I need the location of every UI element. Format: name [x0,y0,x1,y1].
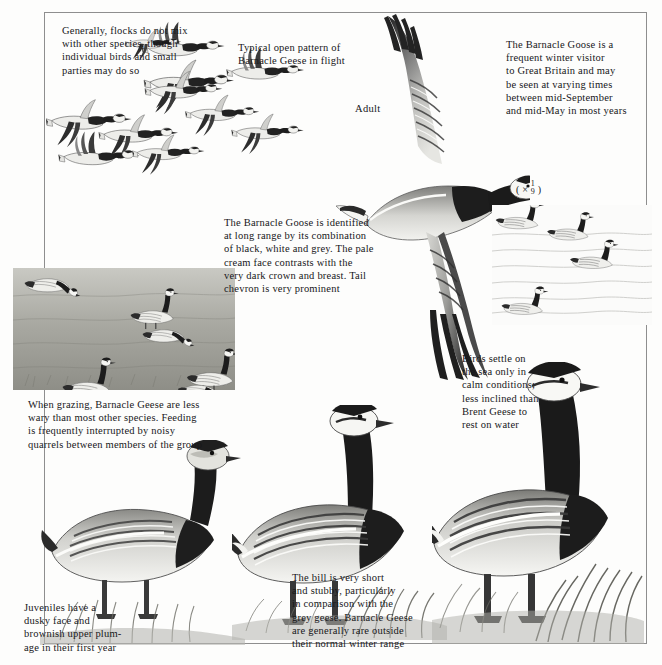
caption-grazing: When grazing, Barnacle Geese are less wa… [28,398,224,451]
caption-identification: The Barnacle Goose is identified at long… [224,216,406,295]
plate-frame-top [44,12,647,13]
caption-flock-mixing: Generally, flocks do not mix with other … [62,24,237,77]
grazing-flock-illustration [13,268,235,390]
caption-bill-shape: The bill is very short and stubby, parti… [292,571,464,650]
large-flying-adult-illustration [330,14,530,384]
illustration-plate: Generally, flocks do not mix with other … [0,0,662,665]
caption-settling-on-sea: Birds settle on the sea only in calm con… [462,352,562,431]
caption-juvenile: Juveniles have a dusky face and brownish… [24,601,154,654]
scale-note: ( × 19 ) [516,180,541,196]
swimming-group-illustration [492,205,652,325]
adult-label: Adult [355,103,381,114]
scale-note-prefix: ( × [516,184,531,195]
caption-winter-visitor: The Barnacle Goose is a frequent winter … [506,38,654,117]
caption-open-pattern: Typical open pattern of Barnacle Geese i… [238,41,388,67]
plate-frame-left [44,12,45,644]
scale-note-suffix: ) [535,184,541,195]
